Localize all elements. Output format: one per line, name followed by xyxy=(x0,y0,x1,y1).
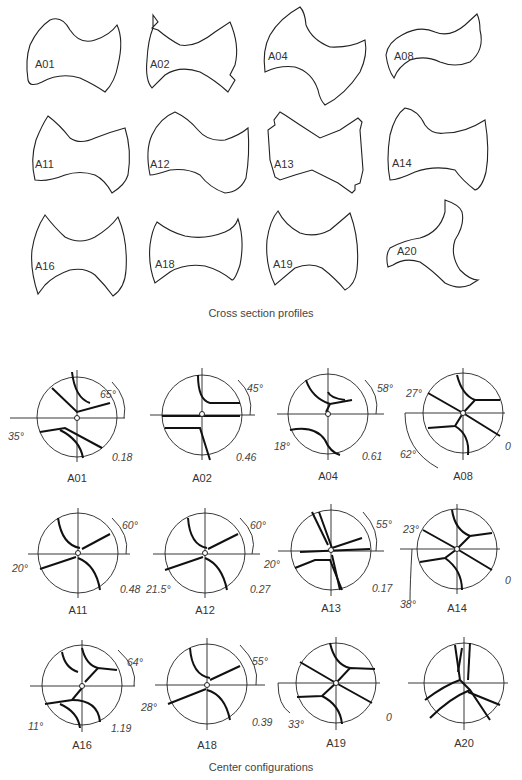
profile-label-a11: A11 xyxy=(35,158,54,170)
angle-left-a11: 20° xyxy=(11,562,28,574)
center-label-a13: A13 xyxy=(321,602,341,614)
center-label-a08: A08 xyxy=(453,470,473,482)
angle-left-a14: 23° xyxy=(402,523,419,535)
center-label-a18: A18 xyxy=(197,739,217,751)
centers-section: 65° 35° 0.18 A01 45° 0.46 A02 xyxy=(8,368,511,773)
center-a02: 45° 0.46 A02 xyxy=(150,368,263,484)
profile-label-a12: A12 xyxy=(150,158,170,170)
center-label-a04: A04 xyxy=(318,470,338,482)
offset-a13: 0.17 xyxy=(372,582,394,594)
angle-top-a16: 64° xyxy=(127,656,143,668)
profile-a20 xyxy=(387,200,478,287)
profile-a08 xyxy=(386,14,481,78)
angle-top-a13: 55° xyxy=(376,518,392,530)
angle-top-a11: 60° xyxy=(122,519,138,531)
profiles-section: A01 A02 A04 A08 A11 A12 A13 A14 A16 A18 … xyxy=(27,7,488,319)
offset-a11: 0.48 xyxy=(120,583,141,595)
profile-label-a18: A18 xyxy=(155,258,175,270)
profile-a11 xyxy=(33,116,130,193)
profile-label-a20: A20 xyxy=(397,245,417,257)
profile-label-a02: A02 xyxy=(150,58,170,70)
center-a14: 23° 38° 0 A14 xyxy=(400,504,511,614)
center-a20: A20 xyxy=(408,637,508,749)
center-a04: 58° 18° 0.61 A04 xyxy=(274,368,393,482)
profile-label-a08: A08 xyxy=(394,50,414,62)
center-label-a19: A19 xyxy=(326,737,346,749)
profile-label-a16: A16 xyxy=(35,260,55,272)
profile-a16 xyxy=(32,215,127,296)
center-label-a02: A02 xyxy=(192,472,212,484)
center-a18: 55° 28° 0.39 A18 xyxy=(140,638,273,751)
profile-label-a19: A19 xyxy=(273,258,293,270)
angle-top-a12: 60° xyxy=(250,519,266,531)
offset-a16: 1.19 xyxy=(111,722,132,734)
center-label-a14: A14 xyxy=(447,602,467,614)
angle-left-a01: 35° xyxy=(8,430,24,442)
profile-label-a01: A01 xyxy=(35,58,55,70)
center-a08: 27° 62° 0 A08 xyxy=(400,368,511,482)
center-label-a20: A20 xyxy=(454,737,474,749)
offset-a04: 0.61 xyxy=(362,450,382,462)
offset-a18: 0.39 xyxy=(252,716,273,728)
center-a12: 60° 21.5° 0.27 A12 xyxy=(145,508,272,616)
angle-left-a08: 27° xyxy=(405,387,422,399)
profile-a02 xyxy=(147,15,237,92)
center-a01: 65° 35° 0.18 A01 xyxy=(8,370,133,484)
caption-cross-section-profiles: Cross section profiles xyxy=(208,307,314,319)
center-label-a11: A11 xyxy=(69,604,88,616)
angle-left-a18: 28° xyxy=(140,701,157,713)
angle-top-a02: 45° xyxy=(247,382,263,394)
offset-a08: 0 xyxy=(505,440,511,452)
angle-left-a13: 20° xyxy=(263,558,280,570)
angle-top-a04: 58° xyxy=(377,382,393,394)
center-a13: 55° 20° 0.17 A13 xyxy=(263,504,394,614)
angle-left-a12: 21.5° xyxy=(145,583,171,595)
offset-a02: 0.46 xyxy=(236,451,257,463)
angle-top-a18: 55° xyxy=(252,655,268,667)
profile-a12 xyxy=(148,112,249,193)
center-a19: 33° 0 A19 xyxy=(278,637,392,749)
profile-label-a13: A13 xyxy=(274,158,294,170)
profile-label-a14: A14 xyxy=(392,157,412,169)
offset-a01: 0.18 xyxy=(112,451,133,463)
center-a16: 64° 11° 1.19 A16 xyxy=(28,640,143,751)
diagram-canvas: A01 A02 A04 A08 A11 A12 A13 A14 A16 A18 … xyxy=(0,0,522,780)
center-label-a12: A12 xyxy=(195,604,215,616)
offset-a14: 0 xyxy=(505,574,511,586)
angle-left2-a14: 38° xyxy=(400,598,416,610)
caption-center-configurations: Center configurations xyxy=(209,761,314,773)
profile-a18 xyxy=(150,219,243,283)
angle-top-a01: 65° xyxy=(100,388,116,400)
offset-a12: 0.27 xyxy=(250,583,272,595)
profile-a19 xyxy=(267,211,358,290)
profile-label-a04: A04 xyxy=(268,50,288,62)
center-label-a01: A01 xyxy=(67,472,87,484)
angle-left-a19: 33° xyxy=(288,718,304,730)
offset-a19: 0 xyxy=(386,711,392,723)
center-label-a16: A16 xyxy=(72,739,92,751)
profile-a01 xyxy=(27,19,121,92)
angle-left-a04: 18° xyxy=(274,440,290,452)
angle-left2-a08: 62° xyxy=(400,448,416,460)
center-a11: 60° 20° 0.48 A11 xyxy=(11,508,141,616)
profile-a14 xyxy=(388,108,488,190)
angle-left-a16: 11° xyxy=(28,720,43,732)
profile-a13 xyxy=(268,112,363,193)
